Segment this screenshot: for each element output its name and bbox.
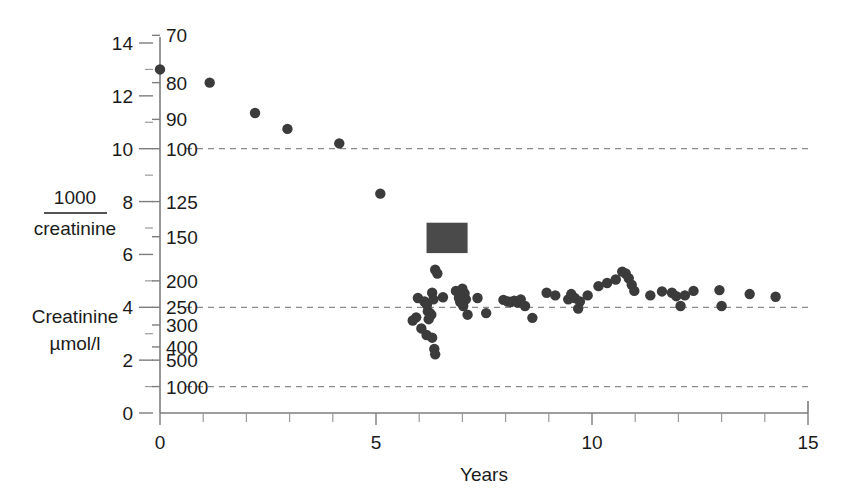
data-point (462, 309, 472, 319)
data-point (408, 315, 418, 325)
data-point (582, 290, 592, 300)
data-point (716, 301, 726, 311)
scatter-plot: 0246810121470809010012515020025030040050… (0, 0, 848, 498)
creatinine-tick-label-100: 100 (166, 139, 198, 160)
y-tick-label-4: 4 (122, 297, 133, 318)
data-point (527, 313, 537, 323)
data-point (250, 108, 260, 118)
creatinine-tick-label-125: 125 (166, 192, 198, 213)
data-point (282, 124, 292, 134)
x-axis-title: Years (460, 464, 508, 485)
creatinine-tick-label-300: 300 (166, 315, 198, 336)
y-tick-label-12: 12 (112, 86, 133, 107)
y-tick-label-10: 10 (112, 139, 133, 160)
data-point (432, 268, 442, 278)
data-point (428, 294, 438, 304)
creatinine-tick-label-150: 150 (166, 227, 198, 248)
y-tick-label-0: 0 (122, 403, 133, 424)
creatinine-tick-label-1000: 1000 (166, 377, 208, 398)
data-point (472, 293, 482, 303)
data-point (573, 303, 583, 313)
data-point (744, 289, 754, 299)
data-point (155, 64, 165, 74)
y-axis-title-numerator: 1000 (54, 187, 96, 208)
data-point (334, 138, 344, 148)
data-point (520, 301, 530, 311)
creatinine-tick-label-80: 80 (166, 73, 187, 94)
data-point (427, 332, 437, 342)
creatinine-axis-title-line1: Creatinine (32, 306, 119, 327)
creatinine-tick-label-200: 200 (166, 271, 198, 292)
data-point (481, 308, 491, 318)
data-point (770, 292, 780, 302)
creatinine-tick-label-90: 90 (166, 109, 187, 130)
x-tick-label-0: 0 (155, 432, 166, 453)
data-point (657, 286, 667, 296)
data-point (645, 290, 655, 300)
y-tick-label-6: 6 (122, 244, 133, 265)
creatinine-axis-title-line2: µmol/l (49, 333, 100, 354)
data-point (204, 77, 214, 87)
data-point (438, 292, 448, 302)
treatment-period-block (427, 223, 468, 253)
x-tick-label-5: 5 (371, 432, 382, 453)
chart-canvas: 0246810121470809010012515020025030040050… (0, 0, 848, 498)
y-tick-label-8: 8 (122, 192, 133, 213)
data-point (714, 285, 724, 295)
x-tick-label-15: 15 (797, 432, 818, 453)
data-point (550, 290, 560, 300)
creatinine-tick-label-500: 500 (166, 350, 198, 371)
y-tick-label-14: 14 (112, 33, 134, 54)
data-point (675, 301, 685, 311)
creatinine-tick-label-70: 70 (166, 25, 187, 46)
y-tick-label-2: 2 (122, 350, 133, 371)
y-axis-title-denominator: creatinine (34, 218, 116, 239)
data-point (375, 188, 385, 198)
data-point (424, 314, 434, 324)
x-tick-label-10: 10 (581, 432, 602, 453)
data-point (629, 286, 639, 296)
data-point (430, 349, 440, 359)
data-point (688, 286, 698, 296)
